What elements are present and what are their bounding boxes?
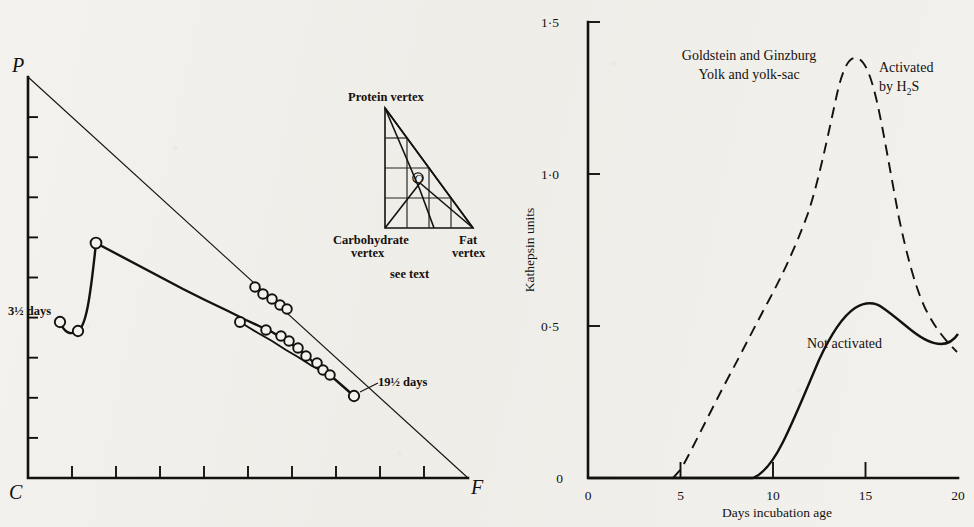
data-point-marker bbox=[55, 317, 65, 327]
data-point-marker bbox=[91, 238, 102, 249]
data-point-marker bbox=[258, 289, 268, 299]
inset-line-carbohydrate-to-o bbox=[385, 183, 420, 228]
data-point-marker bbox=[293, 343, 303, 353]
right-panel-kathepsin-chart: 1·5 1·0 0·5 0 0 5 10 15 20 Days incubati… bbox=[487, 0, 974, 527]
label-activated-line2: by H2S bbox=[879, 79, 919, 97]
triangle-key-inset: O Protein vertex Carbohydrate vertex Fat… bbox=[333, 90, 486, 281]
chart-title-line2: Yolk and yolk-sac bbox=[698, 67, 799, 82]
annotation-3-and-a-half-days: 3½ days bbox=[8, 304, 51, 318]
data-point-marker bbox=[250, 282, 260, 292]
vertex-label-f: F bbox=[470, 476, 484, 498]
composition-trajectory bbox=[60, 243, 354, 396]
curve-not-activated bbox=[588, 304, 958, 479]
data-point-marker bbox=[73, 326, 83, 336]
data-point-marker bbox=[349, 391, 359, 401]
trajectory-segment-main bbox=[96, 243, 354, 396]
x-tick-label-10: 10 bbox=[766, 488, 780, 503]
y-tick-label-1-0: 1·0 bbox=[541, 167, 559, 182]
inset-label-fat-vertex-line2: vertex bbox=[452, 246, 486, 260]
figure-root: P C F bbox=[0, 0, 974, 527]
vertex-label-p: P bbox=[11, 54, 24, 76]
data-point-marker bbox=[325, 370, 335, 380]
inset-caption-see-text: see text bbox=[390, 267, 430, 281]
inset-label-carbohydrate-vertex-line2: vertex bbox=[351, 246, 385, 260]
annotation-19-and-a-half-days: 19½ days bbox=[378, 375, 427, 389]
inset-label-fat-vertex-line1: Fat bbox=[459, 233, 478, 247]
data-point-marker bbox=[301, 351, 311, 361]
data-point-marker bbox=[284, 336, 294, 346]
inset-point-o-label: O bbox=[414, 171, 424, 186]
svg-text:by H2S: by H2S bbox=[879, 79, 919, 97]
x-tick-label-15: 15 bbox=[859, 488, 873, 503]
inset-label-protein-vertex: Protein vertex bbox=[348, 90, 425, 104]
x-axis-title: Days incubation age bbox=[722, 505, 832, 520]
y-tick-label-1-5: 1·5 bbox=[541, 15, 559, 30]
label-activated-line1: Activated bbox=[879, 60, 933, 75]
x-tick-label-20: 20 bbox=[951, 488, 965, 503]
x-tick-label-0: 0 bbox=[585, 488, 592, 503]
data-point-marker bbox=[235, 317, 245, 327]
chart-title-line1: Goldstein and Ginzburg bbox=[682, 48, 816, 63]
y-axis-ticks bbox=[588, 22, 600, 326]
curve-activated-by-h2s bbox=[673, 58, 957, 478]
data-point-marker bbox=[282, 304, 292, 314]
p-axis-ticks bbox=[28, 117, 38, 438]
label-activated-s: S bbox=[911, 79, 919, 94]
x-axis-ticks bbox=[681, 462, 866, 478]
data-point-marker bbox=[261, 325, 271, 335]
inset-line-o-down bbox=[420, 190, 434, 228]
label-not-activated: Not activated bbox=[807, 336, 882, 351]
y-tick-label-0: 0 bbox=[556, 471, 563, 486]
label-activated-by: by H bbox=[879, 79, 907, 94]
y-tick-label-0-5: 0·5 bbox=[541, 319, 559, 334]
cf-axis-ticks bbox=[72, 466, 424, 478]
left-panel-triangular-plot: P C F bbox=[0, 0, 500, 527]
trajectory-markers bbox=[55, 238, 359, 402]
vertex-label-c: C bbox=[9, 481, 23, 503]
y-axis-title: Kathepsin units bbox=[522, 208, 537, 292]
inset-line-o-to-fat bbox=[420, 183, 473, 228]
x-tick-label-5: 5 bbox=[677, 488, 684, 503]
inset-label-carbohydrate-vertex-line1: Carbohydrate bbox=[333, 233, 409, 247]
annotation-leader-line bbox=[360, 383, 378, 392]
